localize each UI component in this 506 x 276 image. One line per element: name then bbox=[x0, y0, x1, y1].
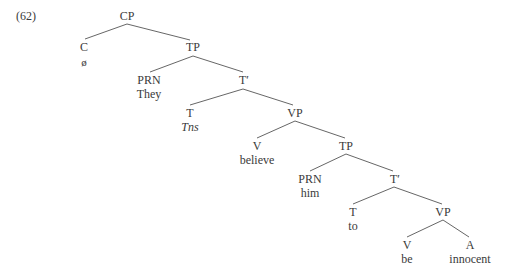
node-tp1: TP bbox=[186, 41, 200, 54]
word-be: be bbox=[401, 253, 412, 266]
word-c: ø bbox=[81, 56, 87, 69]
node-tbar2: T′ bbox=[390, 173, 400, 186]
node-prn1: PRN bbox=[137, 74, 160, 87]
word-to: to bbox=[348, 220, 357, 233]
node-v2: V bbox=[403, 239, 412, 252]
node-t1: T bbox=[186, 107, 193, 120]
node-vp1: VP bbox=[287, 107, 302, 120]
node-a: A bbox=[466, 239, 475, 252]
word-believe: believe bbox=[240, 154, 275, 167]
tree-branches bbox=[0, 0, 506, 276]
word-innocent: innocent bbox=[449, 253, 490, 266]
node-t2: T bbox=[349, 206, 356, 219]
node-c: C bbox=[80, 41, 88, 54]
node-prn2: PRN bbox=[298, 173, 321, 186]
node-tbar1: T′ bbox=[239, 74, 249, 87]
node-v1: V bbox=[253, 140, 262, 153]
word-they: They bbox=[137, 88, 162, 101]
word-tns: Tns bbox=[181, 121, 198, 134]
node-vp2: VP bbox=[435, 206, 450, 219]
node-tp2: TP bbox=[339, 140, 353, 153]
word-him: him bbox=[301, 187, 320, 200]
node-cp: CP bbox=[120, 10, 135, 23]
